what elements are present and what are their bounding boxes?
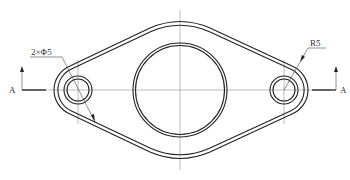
radius-callout: R5 (284, 38, 326, 90)
technical-drawing: 2×Φ5 R5 A A (0, 0, 350, 180)
section-marker-right: A (312, 66, 347, 95)
section-marker-left: A (9, 66, 46, 95)
radius-callout-arrowhead (300, 55, 305, 62)
section-left-label: A (9, 85, 16, 95)
centerlines (22, 10, 330, 170)
section-left-arrowhead (20, 66, 24, 72)
radius-callout-text: R5 (310, 38, 321, 48)
hole-callout-text: 2×Φ5 (31, 47, 52, 57)
section-right-label: A (340, 85, 347, 95)
section-right-arrowhead (334, 66, 338, 72)
